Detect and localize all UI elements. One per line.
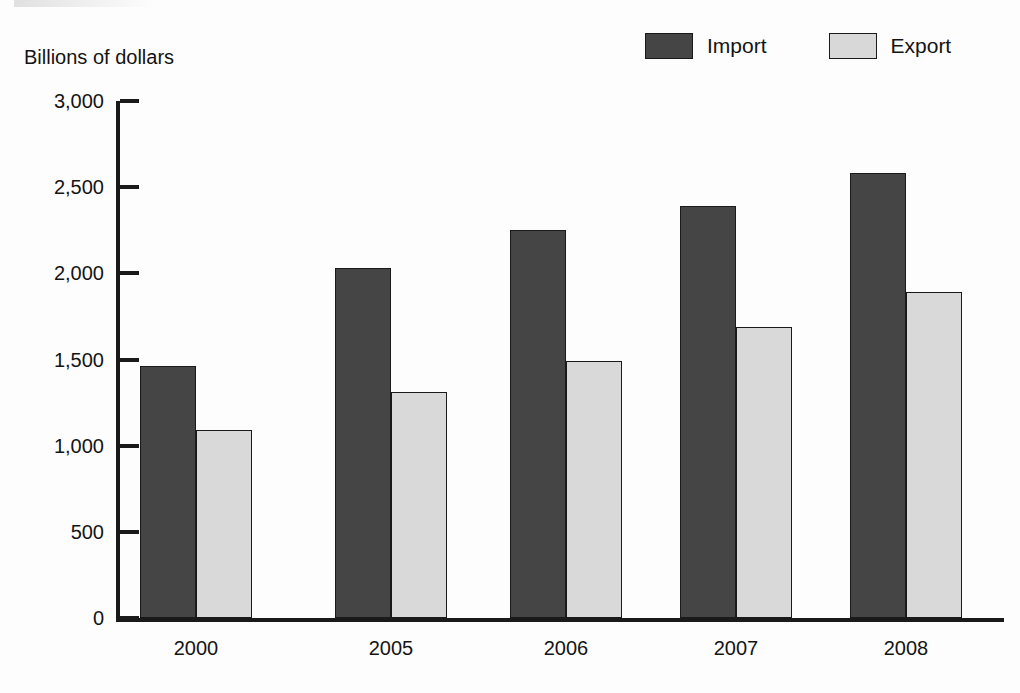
x-axis-label-2005: 2005 (369, 637, 414, 660)
y-tick-3000: 3,000 (120, 99, 139, 103)
legend-swatch-export-icon (829, 33, 877, 59)
legend-entry-import: Import (645, 33, 767, 59)
chart-page: Billions of dollars Import Export 05001,… (0, 0, 1020, 693)
y-tick-label: 0 (93, 607, 104, 630)
y-tick-1000: 1,000 (120, 444, 139, 448)
y-tick-label: 1,000 (54, 434, 104, 457)
bar-export-2006 (566, 361, 622, 618)
bar-import-2005 (335, 268, 391, 618)
y-tick-2500: 2,500 (120, 185, 139, 189)
bar-import-2006 (510, 230, 566, 618)
legend-entry-export: Export (829, 33, 952, 59)
bar-import-2007 (680, 206, 736, 618)
legend-label-export: Export (891, 34, 952, 58)
x-axis-line (116, 618, 1004, 622)
x-axis-label-2008: 2008 (884, 637, 929, 660)
legend-label-import: Import (707, 34, 767, 58)
y-axis-title: Billions of dollars (24, 46, 174, 69)
y-axis-line (116, 101, 120, 622)
y-tick-label: 2,000 (54, 262, 104, 285)
x-axis-label-2007: 2007 (714, 637, 759, 660)
bar-import-2000 (140, 366, 196, 618)
scan-artifact (14, 0, 154, 7)
bar-import-2008 (850, 173, 906, 618)
y-tick-label: 500 (71, 520, 104, 543)
bar-export-2007 (736, 327, 792, 618)
y-tick-1500: 1,500 (120, 358, 139, 362)
y-tick-label: 3,000 (54, 90, 104, 113)
x-axis-label-2006: 2006 (544, 637, 589, 660)
x-axis-label-2000: 2000 (174, 637, 219, 660)
bar-export-2005 (391, 392, 447, 618)
chart-legend: Import Export (645, 33, 951, 59)
y-tick-label: 1,500 (54, 348, 104, 371)
y-tick-500: 500 (120, 530, 139, 534)
bar-export-2000 (196, 430, 252, 618)
bar-export-2008 (906, 292, 962, 618)
plot-area: 05001,0001,5002,0002,5003,000 2000200520… (116, 101, 1004, 618)
y-tick-2000: 2,000 (120, 271, 139, 275)
legend-swatch-import-icon (645, 33, 693, 59)
y-tick-label: 2,500 (54, 176, 104, 199)
y-tick-0: 0 (120, 616, 139, 620)
